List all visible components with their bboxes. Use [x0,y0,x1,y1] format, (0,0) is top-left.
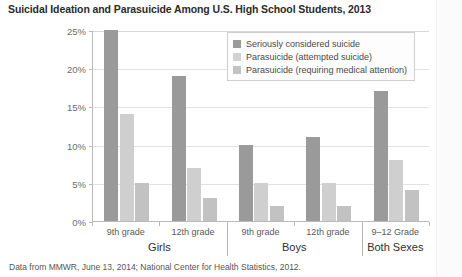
group-separator [227,226,228,256]
legend-label: Parasuicide (attempted suicide) [246,52,372,62]
x-axis-tick [294,222,295,226]
y-axis-label: 15% [67,102,86,113]
page-edge [436,0,462,277]
legend-swatch-icon [233,53,241,61]
x-axis-sublabel: 12th grade [172,227,215,237]
x-axis-tick [159,222,160,226]
x-axis-sublabel: 12th grade [306,227,349,237]
bar [239,145,253,221]
x-axis-sublabel: 9th grade [107,227,145,237]
y-axis-label: 10% [67,140,86,151]
x-axis-group-label: Both Sexes [367,241,423,253]
legend-label: Parasuicide (requiring medical attention… [246,65,407,75]
y-axis-label: 0% [72,217,86,228]
footnote: Data from MMWR, June 13, 2014; National … [9,262,301,272]
legend-item: Seriously considered suicide [233,37,407,50]
bar [322,183,336,221]
y-axis-label: 20% [67,64,86,75]
legend-swatch-icon [233,66,241,74]
x-axis-group-label: Girls [148,241,171,253]
page-title: Suicidal Ideation and Parasuicide Among … [8,3,371,15]
x-axis-sublabel: 9–12 Grade [372,227,420,237]
x-axis-group-label: Boys [282,241,306,253]
legend-swatch-icon [233,40,241,48]
bar [254,183,268,221]
legend-item: Parasuicide (attempted suicide) [233,50,407,63]
bar [306,137,320,221]
bar-group [93,31,160,221]
y-axis-label: 25% [67,26,86,37]
bar [104,30,118,221]
bar [187,168,201,221]
bar [389,160,403,221]
group-separator [362,226,363,256]
x-axis-tick [429,222,430,226]
x-axis-sublabel: 9th grade [241,227,279,237]
bar [270,206,284,221]
legend: Seriously considered suicideParasuicide … [227,32,415,81]
legend-label: Seriously considered suicide [246,39,360,49]
bar [120,114,134,221]
y-axis-label: 5% [72,178,86,189]
x-axis: 9th grade12th grade9th grade12th grade9–… [92,222,429,258]
bar [374,91,388,221]
bar [405,190,419,221]
legend-item: Parasuicide (requiring medical attention… [233,63,407,76]
bar-group [160,31,227,221]
bar [172,76,186,221]
x-axis-tick [92,222,93,226]
bar [203,198,217,221]
bar [135,183,149,221]
bar [337,206,351,221]
